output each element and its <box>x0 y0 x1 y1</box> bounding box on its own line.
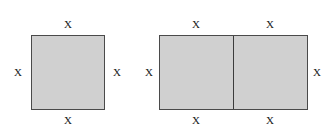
rectangle-top-left-side-label: X <box>185 19 207 30</box>
rectangle-left-side-label: X <box>138 67 160 78</box>
rectangle-right-side-label: X <box>306 67 328 78</box>
rectangle-bottom-right-side-label: X <box>259 115 281 126</box>
figure-split-rectangle: X X X X X X <box>0 0 334 137</box>
rectangle-top-right-side-label: X <box>259 19 281 30</box>
rectangle-center-divider-line <box>233 36 234 109</box>
rectangle-bottom-left-side-label: X <box>185 115 207 126</box>
geometry-diagram: X X X X X X X X X X <box>0 0 334 137</box>
